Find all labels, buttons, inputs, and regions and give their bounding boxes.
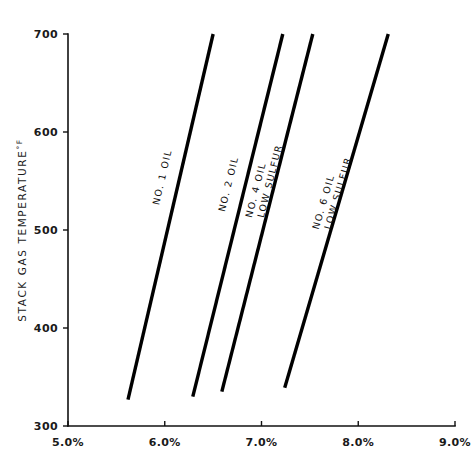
- x-tick-label: 7.0%: [245, 436, 277, 449]
- y-tick-label: 400: [34, 322, 58, 335]
- y-axis-title-main: STACK GAS TEMPERATURE: [16, 150, 28, 322]
- x-tick-label: 8.0%: [342, 436, 374, 449]
- series-label-text: NO. 1 OIL: [150, 148, 174, 206]
- x-tick-label: 5.0%: [52, 436, 84, 449]
- stack-gas-temperature-chart: 700600500400300 5.0%6.0%7.0%8.0%9.0% NO.…: [0, 0, 475, 472]
- series-line: [128, 34, 213, 400]
- x-tick-label: 6.0%: [149, 436, 181, 449]
- y-axis-title-degree: °F: [15, 138, 24, 149]
- y-tick-label: 300: [34, 420, 58, 433]
- y-axis-ticks: 700600500400300: [34, 28, 68, 433]
- chart-plot-area: 700600500400300 5.0%6.0%7.0%8.0%9.0% NO.…: [0, 0, 475, 472]
- series-label-text: NO. 2 OIL: [216, 155, 240, 213]
- y-tick-label: 600: [34, 126, 58, 139]
- y-tick-label: 700: [34, 28, 58, 41]
- series-label-group: NO. 2 OIL: [216, 155, 240, 213]
- x-tick-label: 9.0%: [439, 436, 471, 449]
- y-axis-title-text: STACK GAS TEMPERATURE°F: [15, 138, 28, 321]
- y-tick-label: 500: [34, 224, 58, 237]
- series-label-group: NO. 1 OIL: [150, 148, 174, 206]
- y-axis-title: STACK GAS TEMPERATURE°F: [15, 138, 28, 321]
- series-line: [193, 34, 283, 397]
